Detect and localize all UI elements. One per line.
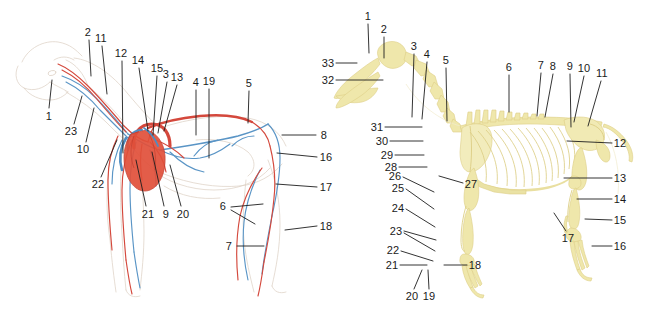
callout-label-v-2: 2 bbox=[85, 27, 91, 38]
callout-label-s-24: 24 bbox=[392, 203, 405, 214]
skeleton-panel: 1234567891011121314151617181920212223242… bbox=[320, 0, 650, 324]
callout-label-s-25: 25 bbox=[392, 183, 405, 194]
callout-label-v-12: 12 bbox=[115, 48, 128, 59]
bones bbox=[334, 41, 633, 298]
callout-label-v-7: 7 bbox=[226, 241, 232, 252]
callout-label-s-11: 11 bbox=[596, 68, 608, 79]
callout-label-s-6: 6 bbox=[506, 62, 512, 73]
callout-label-s-15: 15 bbox=[614, 215, 627, 226]
heart bbox=[124, 130, 165, 191]
callout-label-v-14: 14 bbox=[132, 55, 145, 66]
callout-label-v-20: 20 bbox=[177, 209, 190, 220]
callout-label-s-28: 28 bbox=[385, 162, 398, 173]
callout-label-s-2: 2 bbox=[381, 24, 387, 35]
callout-label-v-3: 3 bbox=[163, 69, 169, 80]
callout-label-v-15: 15 bbox=[151, 63, 164, 74]
callout-label-s-21: 21 bbox=[386, 260, 399, 271]
callout-label-v-6: 6 bbox=[220, 201, 226, 212]
anatomy-figure: 1234567891011121314151617181920212223 bbox=[0, 0, 650, 324]
artery-network bbox=[58, 64, 275, 296]
callout-label-s-31: 31 bbox=[371, 122, 384, 133]
callout-label-v-10: 10 bbox=[77, 144, 90, 155]
callout-label-v-21: 21 bbox=[142, 209, 155, 220]
callout-label-v-13: 13 bbox=[171, 72, 184, 83]
callout-label-v-9: 9 bbox=[163, 209, 169, 220]
callout-label-s-7: 7 bbox=[538, 60, 544, 71]
callout-label-v-11: 11 bbox=[95, 33, 107, 44]
callout-label-v-19: 19 bbox=[203, 76, 216, 87]
callout-label-s-3: 3 bbox=[411, 41, 417, 52]
callout-label-s-4: 4 bbox=[424, 49, 430, 60]
callout-label-v-4: 4 bbox=[193, 77, 199, 88]
callout-label-v-23: 23 bbox=[65, 126, 78, 137]
circulatory-system-artwork bbox=[0, 0, 330, 324]
callout-label-s-29: 29 bbox=[381, 150, 394, 161]
callout-label-s-14: 14 bbox=[614, 194, 627, 205]
callout-label-v-5: 5 bbox=[246, 78, 252, 89]
callout-label-s-1: 1 bbox=[365, 11, 371, 22]
callout-label-s-20: 20 bbox=[406, 291, 419, 302]
callout-label-s-16: 16 bbox=[614, 241, 627, 252]
callout-label-v-22: 22 bbox=[92, 179, 105, 190]
callout-label-v-1: 1 bbox=[46, 111, 52, 122]
callout-label-s-17: 17 bbox=[562, 233, 575, 244]
callout-label-s-13: 13 bbox=[614, 173, 627, 184]
callout-label-s-5: 5 bbox=[443, 55, 449, 66]
callout-label-s-19: 19 bbox=[423, 291, 436, 302]
callout-label-s-8: 8 bbox=[550, 61, 556, 72]
callout-label-s-18: 18 bbox=[469, 260, 482, 271]
callout-label-s-12: 12 bbox=[614, 138, 627, 149]
callout-label-s-30: 30 bbox=[376, 136, 389, 147]
skeleton-artwork bbox=[320, 0, 650, 324]
callout-label-s-22: 22 bbox=[387, 245, 400, 256]
callout-label-s-27: 27 bbox=[465, 179, 478, 190]
callout-label-s-32: 32 bbox=[322, 75, 335, 86]
callout-label-s-10: 10 bbox=[578, 63, 591, 74]
callout-label-s-9: 9 bbox=[567, 61, 573, 72]
callout-label-s-23: 23 bbox=[390, 226, 403, 237]
circulatory-system-panel: 1234567891011121314151617181920212223 bbox=[0, 0, 330, 324]
callout-label-s-33: 33 bbox=[322, 58, 335, 69]
